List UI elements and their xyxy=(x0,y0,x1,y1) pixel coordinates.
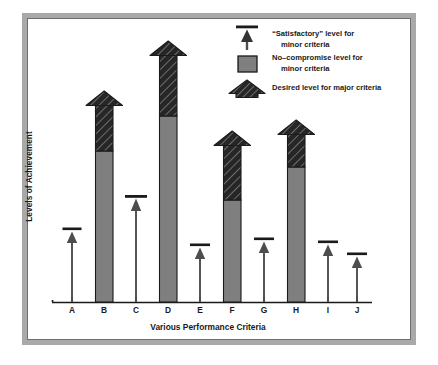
bar-B-major xyxy=(86,91,123,302)
legend-item-no-compromise-line1: No–compromise level for xyxy=(272,53,363,62)
bar-G-minor-arrow xyxy=(254,238,274,303)
legend-item-desired: Desired level for major criteria xyxy=(272,83,381,94)
bar-A-minor-arrow xyxy=(63,228,82,303)
x-tick-label-H: H xyxy=(286,305,306,315)
legend-item-satisfactory-line2: minor criteria xyxy=(272,40,354,51)
x-tick-label-G: G xyxy=(254,305,274,315)
legend-item-desired-line1: Desired level for major criteria xyxy=(272,83,381,92)
x-axis-ticks xyxy=(72,296,357,302)
bar-D-major xyxy=(150,41,187,302)
legend-icon-no-compromise-square xyxy=(238,56,257,72)
legend-item-no-compromise: No–compromise level for minor criteria xyxy=(272,53,363,74)
x-tick-label-J: J xyxy=(347,305,367,315)
x-tick-label-E: E xyxy=(190,305,210,315)
bar-C-minor-arrow xyxy=(125,195,147,302)
bar-J-minor-arrow xyxy=(347,253,367,303)
bar-H-major xyxy=(278,120,315,302)
bar-I-minor-arrow xyxy=(318,241,338,303)
x-tick-label-B: B xyxy=(94,305,114,315)
chart-figure: Levels of Achievement Various Performanc… xyxy=(0,0,438,365)
x-tick-label-F: F xyxy=(222,305,242,315)
x-tick-label-D: D xyxy=(158,305,178,315)
x-axis-title: Various Performance Criteria xyxy=(48,322,368,332)
bar-F-major xyxy=(214,131,251,302)
legend-item-satisfactory-line1: “Satisfactory” level for xyxy=(272,29,354,38)
legend-item-no-compromise-line2: minor criteria xyxy=(272,64,363,75)
legend-icon-satisfactory-arrow xyxy=(236,26,258,51)
x-tick-label-A: A xyxy=(62,305,82,315)
x-tick-label-C: C xyxy=(126,305,146,315)
legend-item-satisfactory: “Satisfactory” level for minor criteria xyxy=(272,29,354,50)
x-tick-label-I: I xyxy=(318,305,338,315)
legend-icon-desired-arrowhead xyxy=(229,80,265,98)
bar-E-minor-arrow xyxy=(190,244,210,303)
y-axis-title: Levels of Achievement xyxy=(25,117,34,237)
